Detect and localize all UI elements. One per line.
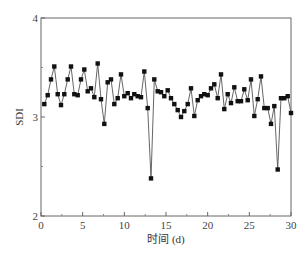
data-point-marker	[96, 61, 100, 65]
data-point-marker	[56, 92, 60, 96]
data-point-marker	[142, 69, 146, 73]
data-point-marker	[89, 86, 93, 90]
data-point-marker	[196, 98, 200, 102]
data-point-marker	[69, 64, 73, 68]
data-point-marker	[249, 77, 253, 81]
data-point-marker	[109, 77, 113, 81]
data-point-marker	[219, 72, 223, 76]
data-point-marker	[129, 96, 133, 100]
x-tick-label: 10	[119, 219, 131, 231]
data-point-marker	[222, 107, 226, 111]
data-point-marker	[212, 82, 216, 86]
data-point-marker	[179, 115, 183, 119]
data-point-marker	[159, 90, 163, 94]
data-point-marker	[46, 93, 50, 97]
data-point-marker	[242, 87, 246, 91]
data-point-marker	[192, 114, 196, 118]
data-point-marker	[189, 86, 193, 90]
data-point-marker	[266, 106, 270, 110]
data-point-marker	[146, 106, 150, 110]
data-point-marker	[162, 94, 166, 98]
data-point-marker	[169, 96, 173, 100]
data-point-marker	[259, 74, 263, 78]
data-point-marker	[76, 93, 80, 97]
x-tick-label: 0	[38, 219, 44, 231]
x-tick-label: 20	[202, 219, 214, 231]
x-axis: 051015202530	[38, 212, 297, 231]
data-point-marker	[112, 102, 116, 106]
data-point-marker	[92, 95, 96, 99]
data-point-marker	[252, 114, 256, 118]
x-tick-label: 15	[161, 219, 173, 231]
y-axis-label: SDI	[13, 108, 25, 126]
data-point-marker	[206, 93, 210, 97]
data-point-marker	[102, 122, 106, 126]
data-point-marker	[186, 102, 190, 106]
data-point-marker	[172, 102, 176, 106]
data-point-marker	[246, 98, 250, 102]
data-point-marker	[59, 103, 63, 107]
data-point-marker	[52, 64, 56, 68]
y-tick-label: 4	[33, 12, 39, 24]
data-point-marker	[239, 99, 243, 103]
data-point-marker	[269, 122, 273, 126]
data-point-marker	[49, 77, 53, 81]
data-point-marker	[216, 96, 220, 100]
y-tick-label: 3	[33, 111, 39, 123]
data-point-marker	[182, 109, 186, 113]
data-point-marker	[226, 92, 230, 96]
x-axis-label: 时间 (d)	[147, 233, 185, 246]
data-point-marker	[176, 108, 180, 112]
y-axis: 234	[33, 12, 46, 222]
data-point-marker	[66, 77, 70, 81]
data-point-marker	[166, 88, 170, 92]
data-point-marker	[126, 91, 130, 95]
y-tick-label: 2	[33, 210, 39, 222]
data-point-marker	[229, 101, 233, 105]
data-point-marker	[286, 94, 290, 98]
data-point-marker	[232, 85, 236, 89]
data-point-marker	[276, 167, 280, 171]
data-point-marker	[289, 111, 293, 115]
x-tick-label: 25	[244, 219, 256, 231]
data-point-marker	[116, 96, 120, 100]
data-point-marker	[152, 77, 156, 81]
data-point-marker	[82, 67, 86, 71]
data-point-marker	[79, 77, 83, 81]
x-tick-label: 5	[80, 219, 86, 231]
data-point-marker	[119, 72, 123, 76]
sdi-line-chart: 234 051015202530 SDI 时间 (d)	[0, 0, 305, 255]
data-point-marker	[256, 97, 260, 101]
x-tick-label: 30	[286, 219, 298, 231]
data-point-marker	[149, 176, 153, 180]
data-point-marker	[99, 97, 103, 101]
data-point-marker	[42, 102, 46, 106]
data-point-marker	[62, 92, 66, 96]
data-point-marker	[209, 86, 213, 90]
data-point-marker	[272, 104, 276, 108]
data-markers	[42, 61, 293, 180]
data-point-marker	[139, 95, 143, 99]
